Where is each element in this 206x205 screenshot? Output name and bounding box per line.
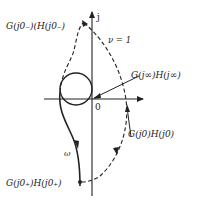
- solid-branch-curve: [60, 92, 80, 186]
- loop-circle: [60, 73, 92, 105]
- dashed-upper-left-curve: [60, 23, 83, 92]
- omega-label: ω: [64, 149, 71, 158]
- dashed-lower-arrow-icon: [113, 147, 119, 155]
- g-jinf-arrow-icon: [93, 93, 101, 99]
- g-j0-arrow-icon: [125, 104, 130, 112]
- dashed-top-arrow-icon: [82, 20, 88, 27]
- imag-axis-label: j: [96, 12, 100, 22]
- nu-label: ν = 1: [108, 35, 131, 45]
- g-jinf-label: G(j∞)H(j∞): [131, 70, 181, 80]
- g-j0-plus-point: [78, 180, 82, 184]
- g-j0-minus-label: G(j0₋)(H(j0₋): [6, 21, 66, 31]
- dashed-nu-arc: [81, 23, 127, 182]
- g-j0-plus-label: G(j0₊)H(j0₊): [6, 178, 62, 188]
- g-j0-label: G(j0)H(j0): [128, 129, 175, 139]
- nyquist-diagram: j 0 G(j0₋)(H(j0₋) ν = 1 G(j∞)H(j∞) G(j0)…: [0, 0, 206, 205]
- origin-label: 0: [95, 102, 101, 112]
